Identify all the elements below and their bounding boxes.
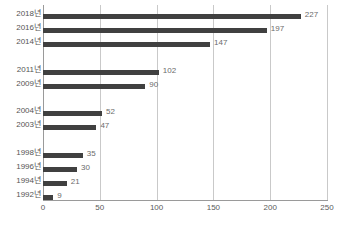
bar (43, 14, 301, 19)
bar-value-label: 147 (214, 38, 227, 47)
bar (43, 153, 83, 158)
bar (43, 84, 145, 89)
bar-value-label: 35 (87, 149, 96, 158)
x-tick-label: 100 (142, 203, 172, 213)
gridline-50 (100, 5, 101, 200)
category-label: 2016년 (0, 23, 41, 32)
category-label: 2018년 (0, 9, 41, 18)
x-axis-line (43, 200, 328, 201)
x-tick-label: 150 (198, 203, 228, 213)
bar-value-label: 102 (163, 66, 176, 75)
category-label: 1992년 (0, 190, 41, 199)
plot-area: 2271971471029052473530219 (43, 5, 327, 200)
bar-value-label: 30 (81, 163, 90, 172)
category-label: 2011년 (0, 65, 41, 74)
bar (43, 167, 77, 172)
bar-value-label: 9 (57, 191, 61, 200)
category-label: 1994년 (0, 176, 41, 185)
category-label: 1998년 (0, 148, 41, 157)
x-tick-label: 50 (85, 203, 115, 213)
bar (43, 111, 102, 116)
category-label: 2004년 (0, 106, 41, 115)
bar (43, 42, 210, 47)
category-label: 2009년 (0, 79, 41, 88)
category-axis: 2018년2016년2014년2011년2009년2004년2003년1998년… (0, 5, 41, 200)
bar (43, 125, 96, 130)
bar-value-label: 52 (106, 107, 115, 116)
category-label: 2003년 (0, 120, 41, 129)
bar-chart: 2271971471029052473530219 2018년2016년2014… (0, 0, 343, 232)
x-tick-label: 0 (28, 203, 58, 213)
bar-value-label: 227 (305, 10, 318, 19)
category-label: 2014년 (0, 37, 41, 46)
bar (43, 181, 67, 186)
bar-value-label: 90 (149, 80, 158, 89)
gridline-150 (213, 5, 214, 200)
x-axis-tick-labels: 050100150200250 (0, 203, 343, 217)
bar (43, 28, 267, 33)
gridline-250 (327, 5, 328, 200)
bar (43, 70, 159, 75)
category-label: 1996년 (0, 162, 41, 171)
bar-value-label: 47 (100, 121, 109, 130)
gridline-200 (270, 5, 271, 200)
x-tick-label: 200 (255, 203, 285, 213)
gridline-100 (157, 5, 158, 200)
bar-value-label: 197 (271, 24, 284, 33)
bar-value-label: 21 (71, 177, 80, 186)
x-tick-label: 250 (312, 203, 342, 213)
